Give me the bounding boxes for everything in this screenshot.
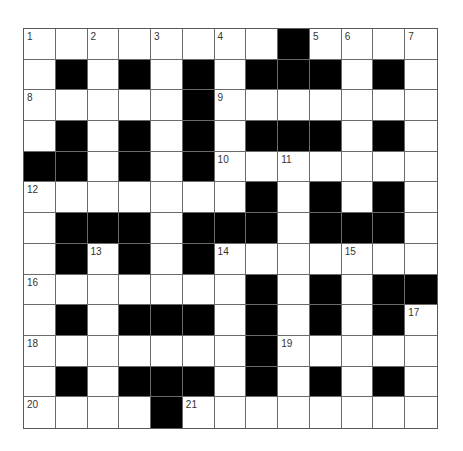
answer-cell[interactable] <box>246 29 278 60</box>
answer-cell[interactable] <box>405 90 437 121</box>
answer-cell[interactable]: 15 <box>342 244 374 275</box>
answer-cell[interactable]: 3 <box>151 29 183 60</box>
answer-cell[interactable] <box>215 367 247 398</box>
answer-cell[interactable] <box>151 60 183 91</box>
answer-cell[interactable] <box>310 336 342 367</box>
answer-cell[interactable] <box>342 90 374 121</box>
answer-cell[interactable] <box>151 121 183 152</box>
answer-cell[interactable] <box>342 305 374 336</box>
answer-cell[interactable] <box>56 90 88 121</box>
answer-cell[interactable] <box>373 152 405 183</box>
answer-cell[interactable] <box>88 182 120 213</box>
answer-cell[interactable] <box>88 367 120 398</box>
answer-cell[interactable] <box>183 336 215 367</box>
answer-cell[interactable] <box>278 182 310 213</box>
answer-cell[interactable] <box>56 397 88 428</box>
answer-cell[interactable] <box>246 397 278 428</box>
answer-cell[interactable] <box>56 182 88 213</box>
answer-cell[interactable] <box>405 336 437 367</box>
answer-cell[interactable] <box>342 60 374 91</box>
answer-cell[interactable] <box>88 275 120 306</box>
answer-cell[interactable]: 17 <box>405 305 437 336</box>
answer-cell[interactable] <box>405 121 437 152</box>
answer-cell[interactable] <box>405 182 437 213</box>
answer-cell[interactable] <box>88 152 120 183</box>
answer-cell[interactable] <box>88 90 120 121</box>
answer-cell[interactable] <box>151 90 183 121</box>
answer-cell[interactable]: 4 <box>215 29 247 60</box>
answer-cell[interactable] <box>310 244 342 275</box>
answer-cell[interactable]: 10 <box>215 152 247 183</box>
answer-cell[interactable] <box>183 182 215 213</box>
answer-cell[interactable] <box>119 336 151 367</box>
answer-cell[interactable] <box>215 60 247 91</box>
answer-cell[interactable] <box>246 244 278 275</box>
answer-cell[interactable]: 16 <box>24 275 56 306</box>
answer-cell[interactable] <box>342 397 374 428</box>
answer-cell[interactable]: 11 <box>278 152 310 183</box>
answer-cell[interactable] <box>405 60 437 91</box>
answer-cell[interactable] <box>342 367 374 398</box>
answer-cell[interactable]: 14 <box>215 244 247 275</box>
answer-cell[interactable] <box>88 336 120 367</box>
answer-cell[interactable]: 7 <box>405 29 437 60</box>
answer-cell[interactable] <box>215 305 247 336</box>
answer-cell[interactable] <box>373 244 405 275</box>
answer-cell[interactable] <box>342 152 374 183</box>
answer-cell[interactable] <box>278 275 310 306</box>
answer-cell[interactable]: 9 <box>215 90 247 121</box>
answer-cell[interactable] <box>151 213 183 244</box>
answer-cell[interactable] <box>342 275 374 306</box>
answer-cell[interactable] <box>56 336 88 367</box>
answer-cell[interactable] <box>278 90 310 121</box>
answer-cell[interactable] <box>310 397 342 428</box>
answer-cell[interactable]: 18 <box>24 336 56 367</box>
answer-cell[interactable] <box>56 29 88 60</box>
answer-cell[interactable] <box>342 121 374 152</box>
answer-cell[interactable] <box>405 213 437 244</box>
answer-cell[interactable] <box>119 90 151 121</box>
answer-cell[interactable] <box>405 397 437 428</box>
answer-cell[interactable] <box>310 152 342 183</box>
answer-cell[interactable] <box>246 152 278 183</box>
answer-cell[interactable] <box>119 397 151 428</box>
answer-cell[interactable] <box>405 152 437 183</box>
answer-cell[interactable]: 20 <box>24 397 56 428</box>
answer-cell[interactable]: 5 <box>310 29 342 60</box>
answer-cell[interactable] <box>88 60 120 91</box>
answer-cell[interactable]: 2 <box>88 29 120 60</box>
answer-cell[interactable] <box>215 336 247 367</box>
answer-cell[interactable] <box>151 182 183 213</box>
answer-cell[interactable] <box>215 275 247 306</box>
answer-cell[interactable] <box>215 397 247 428</box>
answer-cell[interactable] <box>278 397 310 428</box>
answer-cell[interactable] <box>24 367 56 398</box>
answer-cell[interactable] <box>373 397 405 428</box>
answer-cell[interactable]: 13 <box>88 244 120 275</box>
answer-cell[interactable] <box>278 367 310 398</box>
answer-cell[interactable] <box>373 336 405 367</box>
answer-cell[interactable] <box>183 275 215 306</box>
answer-cell[interactable] <box>215 121 247 152</box>
answer-cell[interactable] <box>119 29 151 60</box>
answer-cell[interactable] <box>88 305 120 336</box>
answer-cell[interactable] <box>24 305 56 336</box>
answer-cell[interactable] <box>151 152 183 183</box>
answer-cell[interactable] <box>405 244 437 275</box>
answer-cell[interactable] <box>56 275 88 306</box>
answer-cell[interactable] <box>24 121 56 152</box>
answer-cell[interactable] <box>151 244 183 275</box>
answer-cell[interactable]: 19 <box>278 336 310 367</box>
answer-cell[interactable] <box>24 244 56 275</box>
answer-cell[interactable] <box>119 182 151 213</box>
answer-cell[interactable]: 6 <box>342 29 374 60</box>
answer-cell[interactable] <box>278 305 310 336</box>
answer-cell[interactable] <box>373 29 405 60</box>
answer-cell[interactable] <box>183 29 215 60</box>
answer-cell[interactable]: 8 <box>24 90 56 121</box>
answer-cell[interactable] <box>24 60 56 91</box>
answer-cell[interactable] <box>151 336 183 367</box>
answer-cell[interactable] <box>24 213 56 244</box>
answer-cell[interactable] <box>88 121 120 152</box>
answer-cell[interactable] <box>405 367 437 398</box>
